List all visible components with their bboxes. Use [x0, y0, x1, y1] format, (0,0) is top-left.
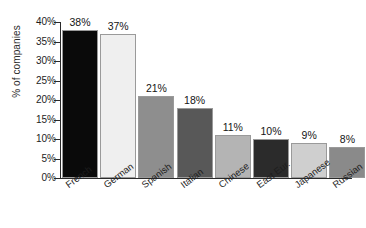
y-axis-tick-mark — [54, 139, 61, 140]
y-axis-tick-mark — [54, 120, 61, 121]
y-axis-tick-mark — [54, 61, 61, 62]
x-axis-tick-label: French — [64, 164, 94, 190]
y-axis-tick-mark — [54, 100, 61, 101]
x-axis-tick-label: Chinese — [217, 161, 251, 190]
bar-chart: % of companies 0%5%10%15%20%25%30%35%40%… — [0, 0, 366, 228]
x-axis-tick-label: German — [102, 161, 135, 190]
y-axis-tick-mark — [54, 178, 61, 179]
y-axis-tick-mark — [54, 81, 61, 82]
x-axis-tick-label-group: FrenchGermanSpanishItalianChineseEast Eu… — [0, 0, 366, 228]
x-axis-tick-label: East Eur. — [255, 159, 292, 190]
x-axis-tick-label: Japanese — [293, 157, 332, 190]
y-axis-tick-mark — [54, 22, 61, 23]
y-axis-tick-mark — [54, 159, 61, 160]
x-axis-tick-label: Russian — [331, 161, 364, 190]
x-axis-tick-label: Italian — [179, 167, 205, 190]
y-axis-tick-mark — [54, 42, 61, 43]
x-axis-tick-label: Spanish — [140, 161, 173, 190]
